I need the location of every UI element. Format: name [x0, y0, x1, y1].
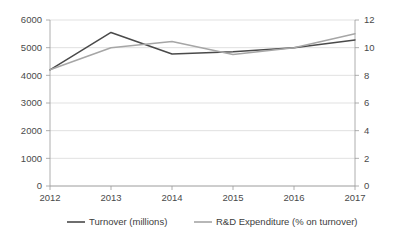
left-axis-tick-label: 5000	[21, 42, 42, 53]
right-axis-tick-label: 0	[364, 180, 369, 191]
x-axis-tick-label: 2012	[39, 192, 60, 203]
left-axis-tick-label: 1000	[21, 153, 42, 164]
x-axis-tick-label: 2016	[283, 192, 304, 203]
chart-canvas: 0100020003000400050006000 024681012 2012…	[0, 0, 395, 240]
left-axis-tick-label: 4000	[21, 70, 42, 81]
chart-background	[0, 0, 395, 240]
left-axis-tick-label: 0	[37, 180, 42, 191]
right-axis-tick-label: 4	[364, 125, 369, 136]
left-axis-tick-label: 6000	[21, 14, 42, 25]
left-axis-tick-label: 2000	[21, 125, 42, 136]
right-axis-tick-label: 2	[364, 153, 369, 164]
legend-label-rnd-expenditure: R&D Expenditure (% on turnover)	[216, 216, 358, 227]
right-axis-tick-label: 8	[364, 70, 369, 81]
right-axis-tick-label: 10	[364, 42, 375, 53]
x-axis-tick-label: 2014	[161, 192, 182, 203]
x-axis-tick-label: 2013	[100, 192, 121, 203]
x-axis-tick-label: 2015	[222, 192, 243, 203]
left-axis-tick-label: 3000	[21, 97, 42, 108]
right-axis-tick-label: 6	[364, 97, 369, 108]
line-chart: 0100020003000400050006000 024681012 2012…	[0, 0, 395, 240]
legend-label-turnover: Turnover (millions)	[89, 216, 167, 227]
x-axis-tick-label: 2017	[344, 192, 365, 203]
right-axis-tick-label: 12	[364, 14, 375, 25]
